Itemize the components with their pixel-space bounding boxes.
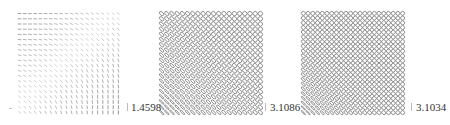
ellipse-glyph <box>305 39 311 45</box>
ellipse-glyph <box>190 89 196 95</box>
line-glyph <box>75 13 78 14</box>
glyph-panel-3 <box>298 8 408 118</box>
line-glyph <box>28 39 32 40</box>
line-glyph <box>87 100 88 104</box>
line-glyph <box>102 49 104 52</box>
ellipse-glyph <box>362 44 368 50</box>
ellipse-glyph <box>395 48 401 54</box>
line-glyph <box>96 33 99 35</box>
ellipse-glyph <box>334 96 339 101</box>
line-glyph <box>75 44 78 46</box>
ellipse-glyph <box>226 37 232 43</box>
ellipse-glyph <box>315 101 320 106</box>
ellipse-glyph <box>376 29 382 35</box>
line-glyph <box>87 95 88 99</box>
ellipse-glyph <box>205 37 211 43</box>
line-glyph <box>55 90 57 93</box>
ellipse-glyph <box>310 53 315 58</box>
ellipse-glyph <box>211 11 217 17</box>
ellipse-glyph <box>357 110 362 115</box>
ellipse-glyph <box>200 94 206 100</box>
ellipse-glyph <box>320 58 325 63</box>
ellipse-glyph <box>169 26 175 32</box>
ellipse-glyph <box>348 105 353 110</box>
line-glyph <box>91 59 93 62</box>
ellipse-glyph <box>386 96 392 102</box>
ellipse-glyph <box>242 42 248 48</box>
ellipse-glyph <box>381 29 387 35</box>
ellipse-glyph <box>367 100 373 106</box>
line-glyph <box>59 29 62 30</box>
line-glyph <box>97 49 99 52</box>
ellipse-glyph <box>200 89 206 95</box>
line-glyph <box>65 59 68 62</box>
ellipse-glyph <box>185 89 191 95</box>
ellipse-glyph <box>185 31 191 37</box>
ellipse-glyph <box>367 15 373 21</box>
line-glyph <box>44 59 47 61</box>
ellipse-glyph <box>400 15 406 21</box>
line-glyph <box>39 39 43 40</box>
line-glyph <box>55 75 58 78</box>
ellipse-glyph <box>310 58 315 63</box>
ellipse-glyph <box>386 110 392 116</box>
ellipse-glyph <box>221 47 227 53</box>
ellipse-glyph <box>400 91 406 97</box>
line-glyph <box>24 91 27 93</box>
ellipse-glyph <box>205 42 211 48</box>
ellipse-glyph <box>395 81 401 87</box>
line-glyph <box>102 33 104 35</box>
line-glyph <box>102 74 103 77</box>
ellipse-glyph <box>310 63 315 68</box>
ellipse-glyph <box>205 68 211 74</box>
ellipse-glyph <box>334 53 340 59</box>
ellipse-glyph <box>174 89 180 95</box>
ellipse-glyph <box>381 105 387 111</box>
ellipse-glyph <box>376 96 382 102</box>
ellipse-glyph <box>174 11 180 17</box>
line-glyph <box>81 64 83 67</box>
line-glyph <box>71 90 73 93</box>
ellipse-glyph <box>169 68 175 74</box>
line-glyph <box>70 49 73 51</box>
ellipse-glyph <box>226 52 232 58</box>
ellipse-glyph <box>221 57 227 63</box>
ellipse-glyph <box>348 91 353 96</box>
ellipse-glyph <box>185 99 191 105</box>
ellipse-glyph <box>338 82 343 87</box>
ellipse-glyph <box>237 31 243 37</box>
ellipse-glyph <box>357 11 363 17</box>
ellipse-glyph <box>257 99 263 105</box>
ellipse-glyph <box>211 94 217 100</box>
line-glyph <box>34 55 37 56</box>
ellipse-glyph <box>334 44 340 50</box>
line-glyph <box>23 80 26 82</box>
ellipse-glyph <box>315 11 321 17</box>
ellipse-glyph <box>310 105 315 110</box>
line-glyph <box>65 85 67 88</box>
ellipse-glyph <box>301 15 307 21</box>
ellipse-glyph <box>306 96 311 101</box>
ellipse-glyph <box>221 21 227 27</box>
ellipse-glyph <box>185 11 191 17</box>
ellipse-glyph <box>205 47 211 53</box>
line-glyph <box>76 80 78 83</box>
ellipse-glyph <box>367 48 373 54</box>
ellipse-glyph <box>329 29 335 35</box>
ellipse-glyph <box>400 96 406 102</box>
ellipse-glyph <box>343 58 349 64</box>
ellipse-glyph <box>257 68 263 74</box>
ellipse-glyph <box>179 11 185 17</box>
ellipse-glyph <box>216 104 222 110</box>
ellipse-glyph <box>310 86 315 91</box>
ellipse-glyph <box>339 110 344 115</box>
ellipse-glyph <box>348 25 354 31</box>
ellipse-glyph <box>315 72 320 77</box>
ellipse-glyph <box>320 105 325 110</box>
ellipse-glyph <box>169 37 175 43</box>
ellipse-glyph <box>211 37 217 43</box>
line-glyph <box>28 65 31 67</box>
line-glyph <box>70 18 73 19</box>
ellipse-glyph <box>348 63 354 69</box>
ellipse-glyph <box>343 48 349 54</box>
